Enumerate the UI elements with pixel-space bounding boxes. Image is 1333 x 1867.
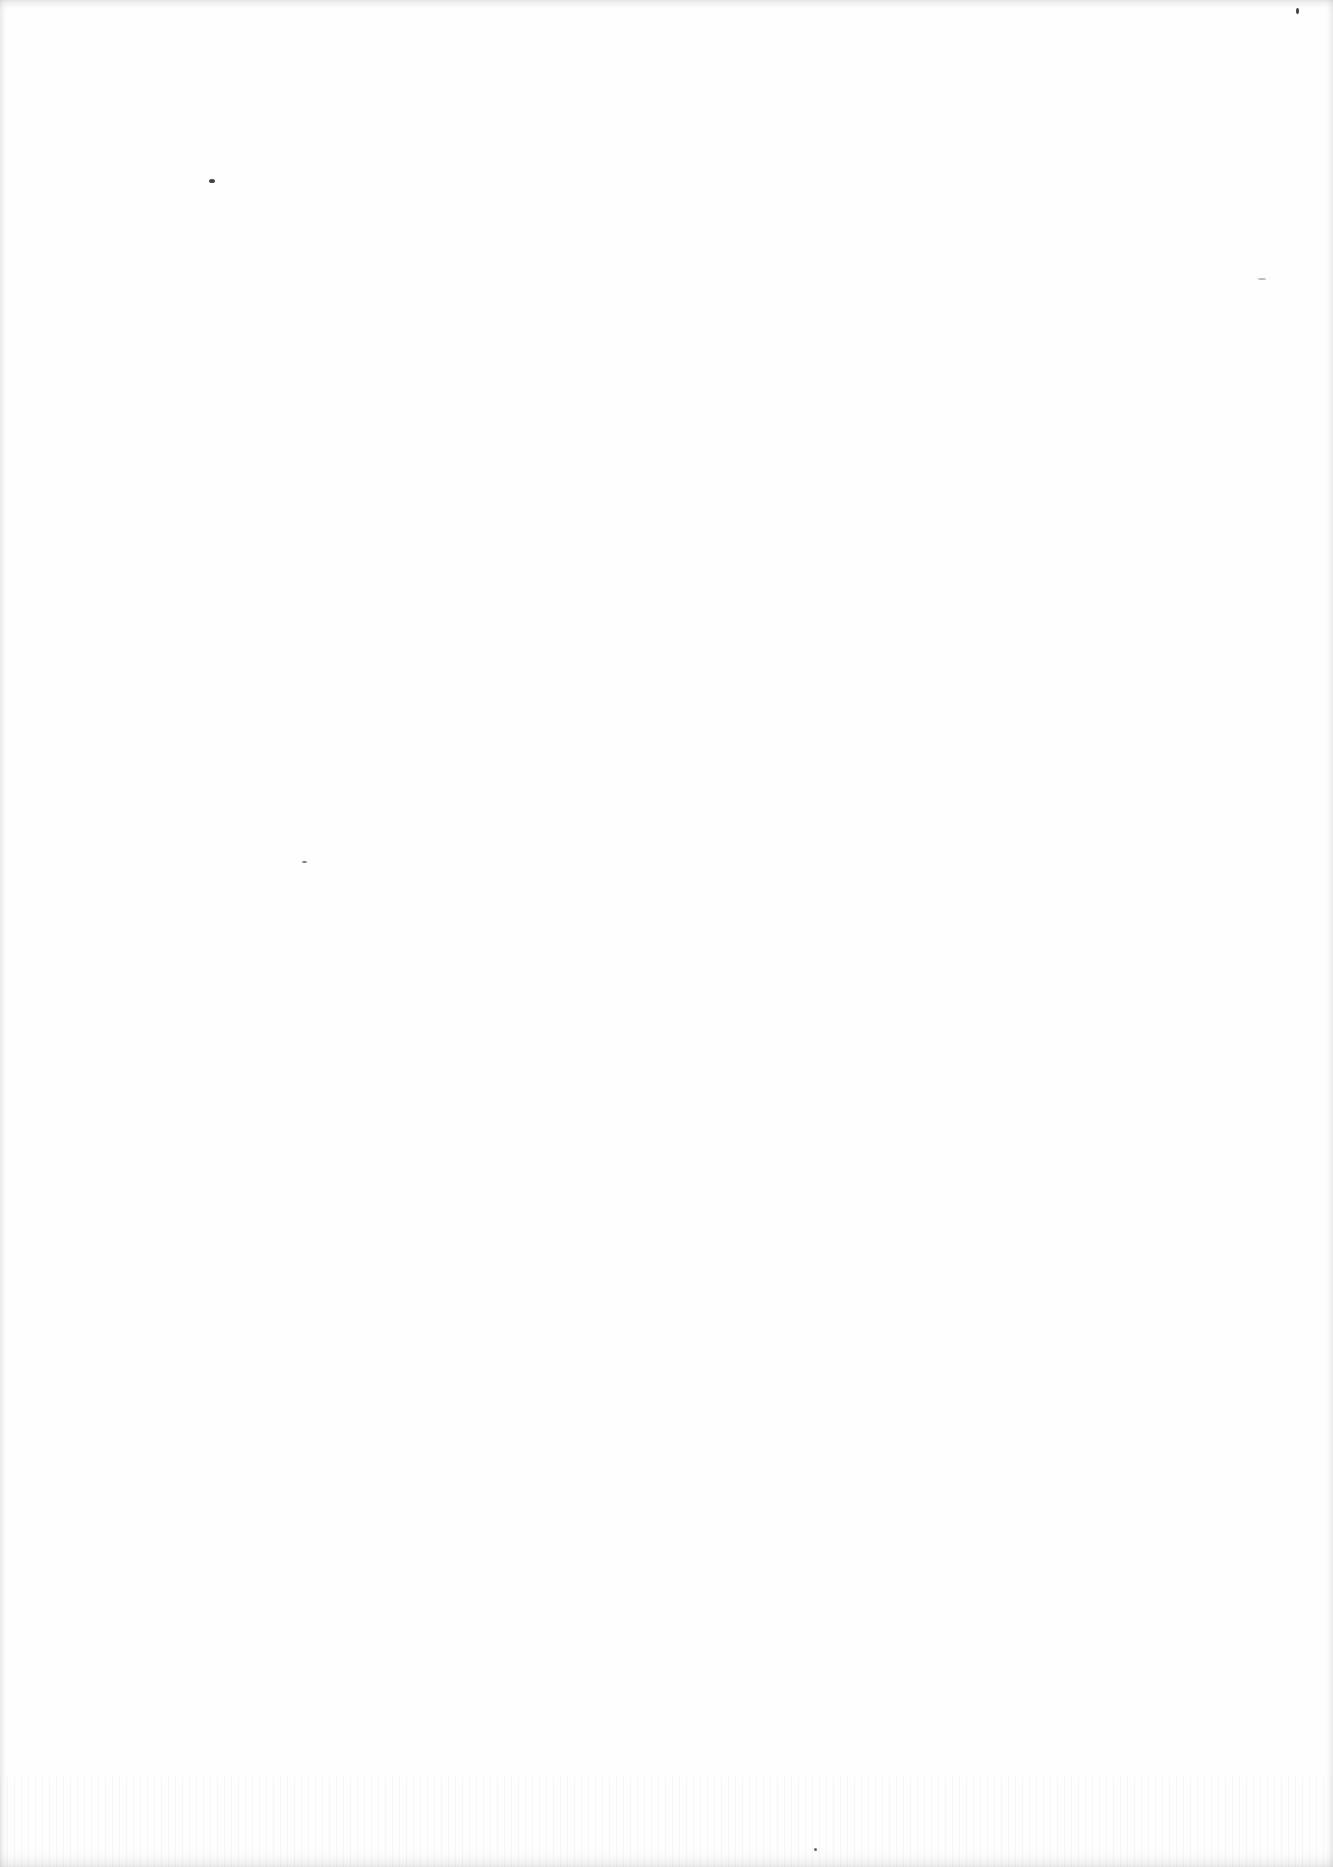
scan-speck [302, 861, 307, 863]
scan-speck [209, 179, 215, 183]
blank-page [0, 0, 1333, 1867]
scan-noise [0, 1777, 1333, 1867]
scan-speck [1296, 8, 1299, 14]
scan-speck [1258, 278, 1266, 280]
